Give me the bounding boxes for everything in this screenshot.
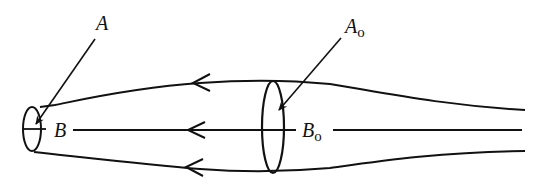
label-B0: Bo bbox=[302, 119, 322, 144]
large-cross-section-ellipse bbox=[262, 81, 284, 173]
A0-pointer-arrow bbox=[279, 38, 341, 110]
stream-tube-diagram: A Ao B Bo bbox=[0, 0, 547, 185]
A-pointer-arrow bbox=[36, 39, 95, 124]
label-A: A bbox=[94, 12, 109, 34]
label-A0: Ao bbox=[343, 15, 365, 40]
bottom-flow-arrow-icon bbox=[186, 159, 203, 176]
label-B: B bbox=[54, 119, 66, 141]
